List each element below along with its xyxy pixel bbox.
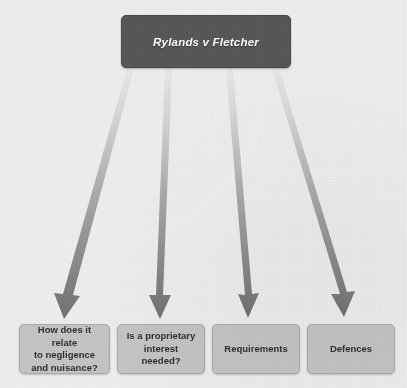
connector-arrow-0	[54, 69, 134, 319]
root-node-rylands-v-fletcher[interactable]: Rylands v Fletcher	[121, 15, 291, 68]
connector-arrow-1	[149, 69, 172, 319]
leaf-node-negligence-nuisance[interactable]: How does it relate to negligence and nui…	[19, 324, 110, 374]
connector-arrow-2	[226, 69, 259, 318]
diagram-canvas: Rylands v Fletcher How does it relate to…	[0, 0, 407, 388]
leaf-node-label: Requirements	[219, 343, 292, 356]
leaf-node-proprietary-interest[interactable]: Is a proprietary interest needed?	[117, 324, 205, 374]
leaf-node-label: How does it relate to negligence and nui…	[20, 324, 109, 374]
leaf-node-defences[interactable]: Defences	[307, 324, 395, 374]
root-node-label: Rylands v Fletcher	[153, 36, 259, 48]
leaf-node-label: Is a proprietary interest needed?	[118, 330, 204, 368]
leaf-node-requirements[interactable]: Requirements	[212, 324, 300, 374]
leaf-node-label: Defences	[325, 343, 377, 356]
connector-arrow-3	[272, 69, 355, 317]
